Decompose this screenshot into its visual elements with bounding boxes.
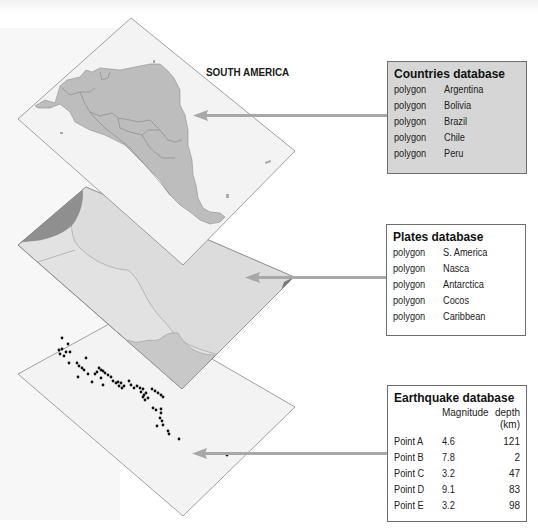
- table-row: polygonChile: [394, 130, 520, 146]
- plates-database-title: Plates database: [393, 229, 509, 244]
- table-row: Point A4.6121: [394, 434, 520, 450]
- table-row: polygonNasca: [393, 261, 519, 277]
- countries-database-title: Countries database: [394, 66, 510, 81]
- table-row: polygonCaribbean: [393, 309, 519, 325]
- table-row: polygonBolivia: [394, 98, 520, 114]
- table-row: polygonBrazil: [394, 114, 520, 130]
- table-header: Magnitude depth(km): [394, 406, 520, 434]
- plates-database-box: Plates database polygonS. America polygo…: [386, 224, 526, 336]
- table-row: Point E3.298: [394, 498, 520, 514]
- table-row: polygonArgentina: [394, 82, 520, 98]
- earthquake-database-title: Earthquake database: [394, 390, 510, 405]
- table-row: polygonAntarctica: [393, 277, 519, 293]
- map-title: SOUTH AMERICA: [206, 66, 289, 78]
- magnitude-header: Magnitude: [436, 406, 495, 434]
- earthquake-database-box: Earthquake database Magnitude depth(km) …: [387, 385, 527, 522]
- table-row: Point B7.82: [394, 450, 520, 466]
- table-row: Point C3.247: [394, 466, 520, 482]
- depth-header: depth(km): [495, 406, 520, 434]
- table-row: polygonCocos: [393, 293, 519, 309]
- table-row: Point D9.183: [394, 482, 520, 498]
- table-row: polygonPeru: [394, 146, 520, 162]
- table-row: polygonS. America: [393, 245, 519, 261]
- countries-database-box: Countries database polygonArgentina poly…: [387, 61, 527, 174]
